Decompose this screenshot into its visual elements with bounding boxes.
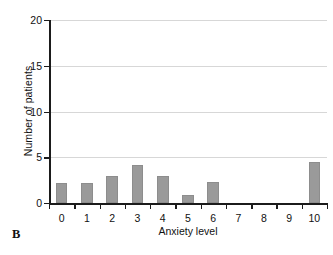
x-axis-tick-label: 10 <box>309 212 321 224</box>
gridline <box>49 112 327 113</box>
bar <box>56 183 68 203</box>
y-axis-tick-label: 15 <box>30 60 42 72</box>
x-axis-tick-label: 3 <box>135 212 141 224</box>
x-axis-tick-mark <box>327 203 328 209</box>
x-axis-line <box>49 203 327 205</box>
bar <box>132 165 144 203</box>
x-axis-tick-label: 9 <box>286 212 292 224</box>
gridline <box>49 66 327 67</box>
bar <box>309 162 321 203</box>
panel-label: B <box>12 227 20 242</box>
x-axis-title: Anxiety level <box>49 225 327 237</box>
gridline <box>49 157 327 158</box>
bar <box>81 183 93 203</box>
bar <box>207 182 219 203</box>
y-axis-line <box>49 20 51 203</box>
x-axis-tick-label: 4 <box>160 212 166 224</box>
x-axis-tick-label: 8 <box>261 212 267 224</box>
y-axis-tick-label: 10 <box>30 106 42 118</box>
gridline <box>49 20 327 21</box>
bar <box>182 195 194 203</box>
x-axis-tick-label: 0 <box>59 212 65 224</box>
y-axis-tick-label: 0 <box>36 197 42 209</box>
x-axis-tick-label: 2 <box>109 212 115 224</box>
y-axis-tick-label: 5 <box>36 151 42 163</box>
bar <box>106 176 118 203</box>
x-axis-tick-label: 7 <box>236 212 242 224</box>
y-axis-tick-label: 20 <box>30 14 42 26</box>
plot-area: 05101520 012345678910 <box>49 20 327 203</box>
x-axis-tick-label: 1 <box>84 212 90 224</box>
figure-panel-b: Number of patients 05101520 012345678910… <box>0 0 333 255</box>
bar <box>157 176 169 203</box>
x-axis-tick-label: 5 <box>185 212 191 224</box>
x-axis-tick-label: 6 <box>210 212 216 224</box>
